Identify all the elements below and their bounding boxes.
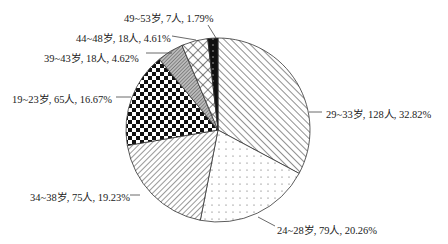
label-19-23: 19~23岁, 65人, 16.67%: [12, 91, 112, 106]
label-24-28: 24~28岁, 79人, 20.26%: [277, 222, 377, 237]
label-39-43: 39~43岁, 18人, 4.62%: [44, 50, 139, 65]
label-44-48: 44~48岁, 18人, 4.61%: [76, 30, 171, 45]
label-34-38: 34~38岁, 75人, 19.23%: [30, 189, 130, 204]
label-29-33: 29~33岁, 128人, 32.82%: [326, 106, 431, 121]
label-49-53: 49~53岁, 7人, 1.79%: [124, 10, 214, 25]
pie-slices: [126, 38, 310, 222]
pie-chart: [0, 0, 448, 244]
